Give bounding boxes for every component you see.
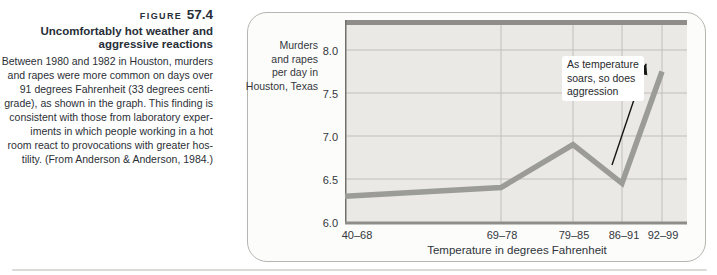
annotation-callout: As temperature soars, so does aggression	[562, 56, 644, 101]
figure-57-4: FIGURE 57.4 Uncomfortably hot weather an…	[0, 0, 717, 275]
y-tick-label: 8.0	[298, 45, 338, 57]
x-axis-title: Temperature in degrees Fahrenheit	[346, 244, 688, 256]
y-tick-label: 6.0	[298, 217, 338, 229]
x-tick-label: 40–68	[327, 229, 387, 241]
figure-label: FIGURE 57.4	[0, 7, 213, 23]
y-tick-label: 6.5	[298, 174, 338, 186]
chart-panel: Murders and rapes per day in Houston, Te…	[247, 12, 706, 262]
x-tick-label: 92–99	[633, 229, 693, 241]
plot-top-border	[345, 20, 687, 25]
figure-caption: FIGURE 57.4 Uncomfortably hot weather an…	[0, 7, 213, 166]
y-tick-label: 7.0	[298, 131, 338, 143]
figure-word: FIGURE	[140, 11, 182, 21]
x-axis-line	[345, 222, 687, 225]
figure-title: Uncomfortably hot weather and aggressive…	[0, 25, 213, 50]
x-tick-label: 69–78	[472, 229, 532, 241]
figure-body-text: Between 1980 and 1982 in Houston, murder…	[0, 54, 213, 166]
page-edge-line	[12, 269, 707, 271]
figure-number: 57.4	[187, 7, 213, 22]
y-tick-label: 7.5	[298, 88, 338, 100]
